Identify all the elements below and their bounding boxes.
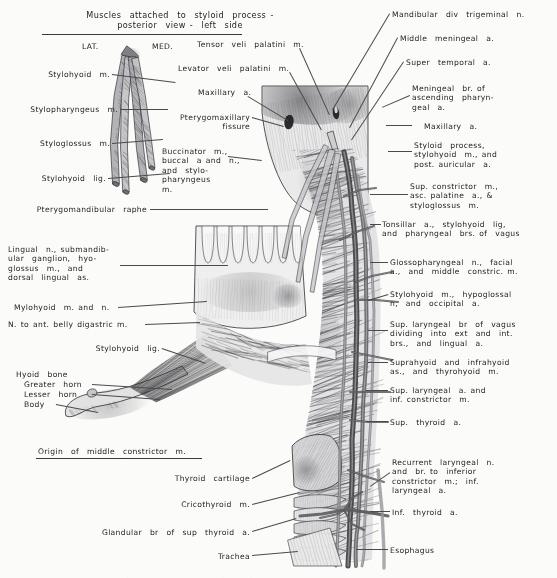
label-meningeal-br-asc-pharyngeal: Meningeal br. ofascending pharyn-geal a. xyxy=(412,84,494,112)
label-cricothyroid-m: Cricothyroid m. xyxy=(181,500,250,509)
label-sup-laryngeal-br-vagus-block: Sup. laryngeal br of vagusdividing into … xyxy=(390,320,516,348)
label-glossopharyngeal-n-block: Glossopharyngeal n., faciala., and middl… xyxy=(390,258,518,277)
label-lingual-n-block-line-2: glossus m., and xyxy=(8,264,109,273)
label-hyoid-lesser-horn-line-0: Lesser horn xyxy=(24,390,77,399)
label-stylohyoid-lig-2-line-0: Stylohyoid lig. xyxy=(96,344,160,353)
label-recurrent-laryngeal-n-block-line-0: Recurrent laryngeal n. xyxy=(392,458,495,467)
label-tensor-veli-palatini-m: Tensor veli palatini m. xyxy=(197,40,304,49)
label-glandular-br-sup-thyroid-a: Glandular br of sup thyroid a. xyxy=(102,528,250,537)
label-recurrent-laryngeal-n-block-line-3: laryngeal a. xyxy=(392,486,495,495)
leader-pterygomandibular-raphe xyxy=(150,209,268,210)
label-recurrent-laryngeal-n-block-line-1: and br. to inferior xyxy=(392,467,495,476)
label-hyoid-bone: Hyoid bone xyxy=(16,370,68,379)
leader-styloid-process-block xyxy=(388,151,412,152)
leader-sup-laryngeal-br-vagus-block xyxy=(368,330,388,331)
label-hyoid-lesser-horn: Lesser horn xyxy=(24,390,77,399)
leader-tonsillar-a-block xyxy=(370,224,381,225)
label-maxillary-a-right-line-0: Maxillary a. xyxy=(424,122,477,131)
leader-inf-thyroid-a xyxy=(370,511,390,512)
orientation-medial: MED. xyxy=(152,42,173,51)
leader-sup-constrictor-block xyxy=(370,194,408,195)
label-meningeal-br-asc-pharyngeal-line-0: Meningeal br. of xyxy=(412,84,494,93)
label-recurrent-laryngeal-n-block: Recurrent laryngeal n.and br. to inferio… xyxy=(392,458,495,496)
leader-stylopharyngeus-m xyxy=(120,109,168,110)
label-mandibular-div-trigeminal-n-line-0: Mandibular div trigeminal n. xyxy=(392,10,524,19)
label-origin-middle-constrictor-line-0: Origin of middle constrictor m. xyxy=(38,447,186,456)
label-maxillary-a-right: Maxillary a. xyxy=(424,122,477,131)
leader-esophagus xyxy=(356,549,388,550)
label-glossopharyngeal-n-block-line-1: a., and middle constric. m. xyxy=(390,267,518,276)
label-sup-thyroid-a: Sup. thyroid a. xyxy=(390,418,461,427)
label-stylohyoid-lig-2: Stylohyoid lig. xyxy=(96,344,160,353)
label-sup-laryngeal-br-vagus-block-line-1: dividing into ext and int. xyxy=(390,329,516,338)
label-styloglossus-m: Styloglossus m. xyxy=(40,139,110,148)
inset-title-rule xyxy=(42,34,242,35)
label-esophagus-line-0: Esophagus xyxy=(390,546,434,555)
label-suprahyoid-infrahyoid-block-line-0: Suprahyoid and infrahyoid xyxy=(390,358,510,367)
label-sup-laryngeal-a-block: Sup. laryngeal a. andinf. constrictor m. xyxy=(390,386,486,405)
label-middle-meningeal-a-line-0: Middle meningeal a. xyxy=(400,34,494,43)
label-levator-veli-palatini-m-line-0: Levator veli palatini m. xyxy=(178,64,289,73)
anatomical-plate: Muscles attached to styloid process -pos… xyxy=(0,0,557,578)
label-stylohyoid-m-hypoglossal-block-line-1: n, and occipital a. xyxy=(390,299,511,308)
label-thyroid-cartilage-line-0: Thyroid cartilage xyxy=(175,474,250,483)
label-middle-meningeal-a: Middle meningeal a. xyxy=(400,34,494,43)
label-stylohyoid-lig: Stylohyoid lig. xyxy=(42,174,106,183)
leader-suprahyoid-infrahyoid-block xyxy=(368,362,388,363)
label-styloid-process-block-line-2: post. auricular a. xyxy=(414,160,497,169)
label-buccinator-block-line-3: pharyngeus xyxy=(162,175,240,184)
label-hyoid-bone-line-0: Hyoid bone xyxy=(16,370,68,379)
label-meningeal-br-asc-pharyngeal-line-2: geal a. xyxy=(412,103,494,112)
label-esophagus: Esophagus xyxy=(390,546,434,555)
origin-caption-rule xyxy=(36,458,202,459)
label-sup-laryngeal-br-vagus-block-line-0: Sup. laryngeal br of vagus xyxy=(390,320,516,329)
label-sup-constrictor-block: Sup. constrictor m.,asc. palatine a., &s… xyxy=(410,182,498,210)
label-buccinator-block-line-2: and stylo- xyxy=(162,166,240,175)
label-glandular-br-sup-thyroid-a-line-0: Glandular br of sup thyroid a. xyxy=(102,528,250,537)
label-sup-thyroid-a-line-0: Sup. thyroid a. xyxy=(390,418,461,427)
label-sup-laryngeal-a-block-line-1: inf. constrictor m. xyxy=(390,395,486,404)
label-super-temporal-a-line-0: Super temporal a. xyxy=(406,58,491,67)
label-sup-constrictor-block-line-1: asc. palatine a., & xyxy=(410,191,498,200)
label-lingual-n-block: Lingual n., submandib-ular ganglion, hyo… xyxy=(8,245,109,283)
inset-title: Muscles attached to styloid process -pos… xyxy=(86,10,273,30)
label-maxillary-a-left-line-0: Maxillary a. xyxy=(198,88,251,97)
label-lingual-n-block-line-3: dorsal lingual as. xyxy=(8,273,109,282)
label-sup-laryngeal-br-vagus-block-line-2: brs., and lingual a. xyxy=(390,339,516,348)
orientation-medial-line-0: MED. xyxy=(152,42,173,51)
label-buccinator-block: Buccinator m.,buccal a and n.,and stylo-… xyxy=(162,147,240,194)
leader-glossopharyngeal-n-block xyxy=(370,262,388,263)
label-styloid-process-block-line-0: Styloid process, xyxy=(414,141,497,150)
label-pterygomaxillary-fissure: Pterygomaxillaryfissure xyxy=(180,113,250,132)
label-lingual-n-block-line-0: Lingual n., submandib- xyxy=(8,245,109,254)
label-maxillary-a-left: Maxillary a. xyxy=(198,88,251,97)
label-thyroid-cartilage: Thyroid cartilage xyxy=(175,474,250,483)
label-trachea: Trachea xyxy=(218,552,250,561)
label-levator-veli-palatini-m: Levator veli palatini m. xyxy=(178,64,289,73)
label-trachea-line-0: Trachea xyxy=(218,552,250,561)
label-mylohyoid-m-and-n-line-0: Mylohyoid m. and n. xyxy=(14,303,109,312)
orientation-lateral: LAT. xyxy=(82,42,99,51)
label-stylopharyngeus-m-line-0: Stylopharyngeus m. xyxy=(30,105,118,114)
leader-maxillary-a-right xyxy=(386,125,412,126)
label-styloid-process-block: Styloid process,stylohyoid m., andpost. … xyxy=(414,141,497,169)
label-meningeal-br-asc-pharyngeal-line-1: ascending pharyn- xyxy=(412,93,494,102)
label-glossopharyngeal-n-block-line-0: Glossopharyngeal n., facial xyxy=(390,258,518,267)
label-tonsillar-a-block-line-0: Tonsillar a., stylohyoid lig, xyxy=(382,220,520,229)
label-lingual-n-block-line-1: ular ganglion, hyo- xyxy=(8,254,109,263)
orientation-lateral-line-0: LAT. xyxy=(82,42,99,51)
label-tonsillar-a-block-line-1: and pharyngeal brs. of vagus xyxy=(382,229,520,238)
label-pterygomandibular-raphe: Pterygomandibular raphe xyxy=(37,205,147,214)
label-sup-constrictor-block-line-2: styloglossus m. xyxy=(410,201,498,210)
label-pterygomaxillary-fissure-line-1: fissure xyxy=(180,122,250,131)
label-hyoid-greater-horn-line-0: Greater horn xyxy=(24,380,82,389)
label-pterygomandibular-raphe-line-0: Pterygomandibular raphe xyxy=(37,205,147,214)
label-suprahyoid-infrahyoid-block: Suprahyoid and infrahyoidas., and thyroh… xyxy=(390,358,510,377)
label-pterygomaxillary-fissure-line-0: Pterygomaxillary xyxy=(180,113,250,122)
leader-sup-thyroid-a xyxy=(366,421,388,422)
label-hyoid-greater-horn: Greater horn xyxy=(24,380,82,389)
label-tonsillar-a-block: Tonsillar a., stylohyoid lig,and pharyng… xyxy=(382,220,520,239)
label-hyoid-body: Body xyxy=(24,400,45,409)
label-buccinator-block-line-1: buccal a and n., xyxy=(162,156,240,165)
label-inf-thyroid-a-line-0: Inf. thyroid a. xyxy=(392,508,458,517)
